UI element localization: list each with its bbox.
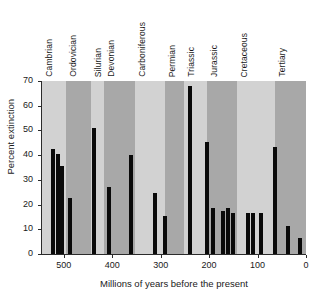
- period-label-silurian: Silurian: [94, 48, 103, 77]
- y-axis-line: [41, 81, 42, 255]
- period-label-triassic: Triassic: [187, 47, 196, 77]
- y-tick-mark: [38, 106, 41, 107]
- bar: [273, 147, 277, 255]
- x-tick-mark: [161, 255, 162, 258]
- x-tick-mark: [258, 255, 259, 258]
- y-tick-mark: [38, 81, 41, 82]
- bar: [129, 155, 133, 254]
- x-tick-label: 0: [293, 261, 319, 270]
- period-band-tertiary: [275, 81, 306, 254]
- bar: [107, 187, 111, 254]
- bar: [286, 226, 290, 254]
- bar: [163, 216, 167, 254]
- x-tick-mark: [64, 255, 65, 258]
- bar: [298, 238, 302, 254]
- y-tick-mark: [38, 205, 41, 206]
- period-label-carboniferous: Carboniferous: [138, 22, 147, 77]
- y-tick-label: 10: [15, 224, 33, 233]
- bar: [68, 198, 72, 254]
- y-tick-mark: [38, 180, 41, 181]
- x-tick-label: 100: [245, 261, 271, 270]
- bar: [226, 208, 230, 254]
- plot-area: [42, 81, 306, 254]
- bar: [60, 166, 64, 254]
- period-band-permian: [165, 81, 185, 254]
- bar: [251, 213, 255, 254]
- bar: [246, 213, 250, 254]
- bar: [92, 128, 96, 254]
- period-label-permian: Permian: [168, 45, 177, 77]
- x-tick-label: 400: [99, 261, 125, 270]
- bar: [221, 211, 225, 254]
- x-axis-line: [41, 254, 306, 255]
- bar: [231, 213, 235, 254]
- bar: [259, 213, 263, 254]
- y-tick-mark: [38, 155, 41, 156]
- bar: [153, 193, 157, 254]
- x-tick-label: 300: [148, 261, 174, 270]
- y-tick-mark: [38, 229, 41, 230]
- bar: [205, 142, 209, 254]
- x-tick-mark: [306, 255, 307, 258]
- period-label-cretaceous: Cretaceous: [240, 33, 249, 77]
- extinction-chart-figure: CambrianOrdovicianSilurianDevonianCarbon…: [0, 0, 319, 304]
- y-tick-label: 30: [15, 175, 33, 184]
- bar: [51, 149, 55, 254]
- y-tick-label: 0: [15, 249, 33, 258]
- period-label-cambrian: Cambrian: [45, 39, 54, 77]
- y-tick-label: 20: [15, 200, 33, 209]
- period-band-cretaceous: [237, 81, 274, 254]
- y-tick-label: 40: [15, 150, 33, 159]
- x-tick-label: 200: [196, 261, 222, 270]
- period-label-ordovician: Ordovician: [69, 35, 78, 77]
- y-tick-label: 70: [15, 76, 33, 85]
- x-axis-title: Millions of years before the present: [42, 279, 306, 289]
- y-tick-mark: [38, 254, 41, 255]
- period-band-carboniferous: [135, 81, 165, 254]
- bar: [211, 208, 215, 254]
- bar: [188, 86, 192, 254]
- y-tick-label: 50: [15, 125, 33, 134]
- x-tick-mark: [112, 255, 113, 258]
- x-tick-mark: [209, 255, 210, 258]
- period-label-jurassic: Jurassic: [210, 45, 219, 77]
- period-label-devonian: Devonian: [107, 40, 116, 77]
- period-label-tertiary: Tertiary: [278, 48, 287, 77]
- y-tick-label: 60: [15, 101, 33, 110]
- y-tick-mark: [38, 130, 41, 131]
- y-axis-title: Percent extinction: [6, 99, 16, 175]
- x-tick-label: 500: [51, 261, 77, 270]
